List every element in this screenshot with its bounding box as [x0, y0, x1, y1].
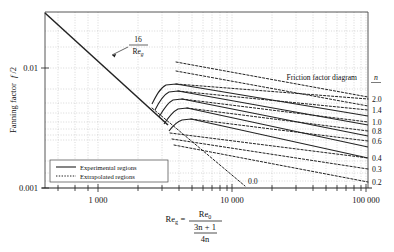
- n-label-0-6: 0.6: [372, 137, 382, 146]
- y-axis-title-symbol: f: [8, 74, 18, 78]
- x-tick-label-1000: 1 000: [88, 195, 107, 205]
- formula-den-denominator: 4n: [201, 234, 210, 244]
- laminar-annotation-numerator: 16: [134, 35, 142, 44]
- n-header-label: n: [374, 73, 378, 82]
- n-label-1-4: 1.4: [372, 106, 382, 115]
- n-label-1-0: 1.0: [372, 118, 382, 127]
- friction-factor-chart: 1 000 10 000 100 000 0.01 0.001 Fanning …: [0, 0, 394, 252]
- chart-svg: 1 000 10 000 100 000 0.01 0.001 Fanning …: [0, 0, 394, 252]
- y-axis-title-tail: /2: [8, 67, 18, 74]
- x-tick-label-10000: 10 000: [220, 195, 243, 205]
- legend-label-experimental: Experimental regions: [80, 164, 137, 171]
- n-label-0-4: 0.4: [372, 154, 382, 163]
- y-tick-label-0001: 0.001: [19, 183, 38, 193]
- n-value-labels: 2.0 1.4 1.0 0.8 0.6 0.4 0.3 0.2: [372, 95, 382, 187]
- diagram-title: Friction factor diagram: [287, 73, 358, 82]
- svg-text:Fanning factor f: Fanning factor f /2: [8, 67, 18, 133]
- y-axis-title: Fanning factor f /2: [8, 67, 18, 133]
- y-tick-label-001: 0.01: [23, 63, 38, 73]
- n-label-0-2: 0.2: [372, 178, 382, 187]
- n-label-2-0: 2.0: [372, 95, 382, 104]
- n-label-0-8: 0.8: [372, 127, 382, 136]
- formula-lhs: Re: [166, 214, 176, 224]
- legend: Experimental regions Extrapolated region…: [50, 160, 168, 182]
- legend-label-extrapolated: Extrapolated regions: [80, 173, 135, 180]
- n-label-0-3: 0.3: [372, 165, 382, 174]
- formula-lhs-sub: g: [175, 219, 178, 225]
- formula-equals: =: [181, 214, 186, 224]
- annotation-n-zero: 0.0: [248, 177, 258, 186]
- formula-den-numerator: 3n + 1: [194, 222, 216, 232]
- x-tick-label-100000: 100 000: [352, 195, 380, 205]
- y-axis-title-main: Fanning factor: [8, 83, 18, 133]
- chart-background: [0, 0, 394, 252]
